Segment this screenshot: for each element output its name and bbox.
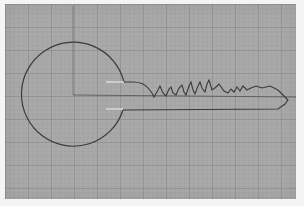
horizontal-guide-line [73, 95, 296, 97]
key-drawing [0, 0, 304, 206]
key-blade-teeth [124, 80, 284, 97]
key-blade-bottom [123, 96, 288, 110]
